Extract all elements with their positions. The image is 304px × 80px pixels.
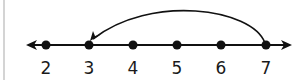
tick-label-4: 4	[128, 58, 139, 78]
number-line-diagram: 2 3 4 5 6 7	[0, 0, 304, 80]
tick-label-3: 3	[84, 58, 95, 78]
point-6	[217, 41, 226, 50]
point-2	[42, 41, 51, 50]
point-7	[262, 41, 271, 50]
point-5	[173, 41, 182, 50]
tick-label-6: 6	[216, 58, 227, 78]
jump-arrowhead-icon	[90, 31, 100, 41]
point-4	[129, 41, 138, 50]
point-3	[85, 41, 94, 50]
tick-label-5: 5	[172, 58, 183, 78]
jump-arc	[93, 11, 265, 43]
tick-label-2: 2	[41, 58, 52, 78]
tick-label-7: 7	[261, 58, 272, 78]
